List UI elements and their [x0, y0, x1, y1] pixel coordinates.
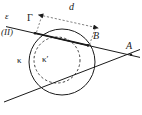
geometry-figure: ε Γ (ΙΙ) d B A κ κ′ [0, 0, 142, 115]
tangent-line-through-a [4, 50, 140, 103]
label-line-epsilon: ε [5, 12, 9, 21]
dimension-leader-left [37, 15, 43, 32]
lines-group [4, 27, 140, 102]
label-plane-note: (ΙΙ) [1, 28, 13, 37]
point-a-marker [130, 53, 132, 55]
label-point-b: B [93, 31, 99, 41]
point-gamma-marker [34, 32, 37, 35]
chord-gamma-b [35, 33, 88, 45]
inner-circle-kappa-prime [34, 37, 80, 83]
label-circle-kappa-prime: κ′ [42, 55, 49, 64]
dimension-arrow-d [43, 16, 95, 27]
label-point-a: A [126, 41, 132, 51]
label-point-gamma: Γ [27, 13, 33, 23]
label-distance-d: d [69, 2, 74, 12]
label-circle-kappa: κ [17, 56, 22, 65]
point-b-marker [87, 44, 90, 47]
